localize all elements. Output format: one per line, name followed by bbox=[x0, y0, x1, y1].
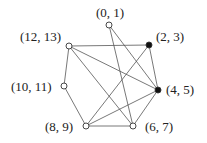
node-n45 bbox=[155, 87, 161, 93]
node-n01 bbox=[106, 22, 112, 28]
node-label: (6, 7) bbox=[145, 119, 173, 134]
nodes bbox=[61, 22, 161, 129]
node-label: (4, 5) bbox=[166, 82, 194, 97]
node-n67 bbox=[130, 123, 136, 129]
edge-n1213-n23 bbox=[69, 45, 149, 46]
node-label: (12, 13) bbox=[20, 29, 61, 44]
node-label: (0, 1) bbox=[96, 5, 124, 20]
edges bbox=[64, 25, 158, 126]
edge-n23-n45 bbox=[149, 45, 158, 90]
edge-n1213-n1011 bbox=[64, 46, 69, 86]
node-n89 bbox=[83, 123, 89, 129]
node-label: (10, 11) bbox=[11, 79, 52, 94]
graph-diagram: (0, 1)(2, 3)(4, 5)(6, 7)(8, 9)(10, 11)(1… bbox=[0, 0, 207, 143]
node-n1011 bbox=[61, 83, 67, 89]
node-n1213 bbox=[66, 43, 72, 49]
node-label: (8, 9) bbox=[45, 119, 73, 134]
node-label: (2, 3) bbox=[156, 29, 184, 44]
labels: (0, 1)(2, 3)(4, 5)(6, 7)(8, 9)(10, 11)(1… bbox=[11, 5, 194, 134]
edge-n1213-n45 bbox=[69, 46, 158, 90]
edge-n89-n23 bbox=[86, 45, 149, 126]
node-n23 bbox=[146, 42, 152, 48]
